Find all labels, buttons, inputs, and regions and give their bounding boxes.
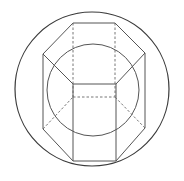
outer-circle <box>15 12 169 166</box>
inner-circle <box>47 44 139 136</box>
prism-hidden-edge <box>115 97 145 128</box>
prism-top-face <box>43 23 145 84</box>
hexagonal-prism-diagram <box>0 0 184 181</box>
diagram-canvas <box>0 0 184 181</box>
prism-hidden-edge <box>43 97 73 129</box>
